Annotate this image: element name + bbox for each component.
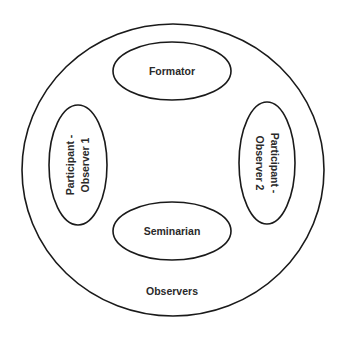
observers-label: Observers bbox=[146, 285, 198, 297]
participant-observer-2-node: Participant - Observer 2 bbox=[239, 102, 295, 224]
formator-label: Formator bbox=[149, 65, 195, 77]
participant-observer-1-line2: Observer 1 bbox=[79, 137, 91, 192]
participant-observer-1-node: Participant - Observer 1 bbox=[49, 105, 107, 225]
formator-node: Formator bbox=[113, 42, 231, 100]
seminarian-node: Seminarian bbox=[113, 202, 231, 260]
participant-observer-2-line1: Participant - bbox=[269, 133, 281, 194]
seminarian-label: Seminarian bbox=[144, 225, 201, 237]
diagram-canvas: Observers Formator Participant - Observe… bbox=[0, 0, 343, 339]
participant-observer-2-line2: Observer 2 bbox=[254, 136, 266, 191]
participant-observer-1-line1: Participant - bbox=[64, 134, 76, 195]
